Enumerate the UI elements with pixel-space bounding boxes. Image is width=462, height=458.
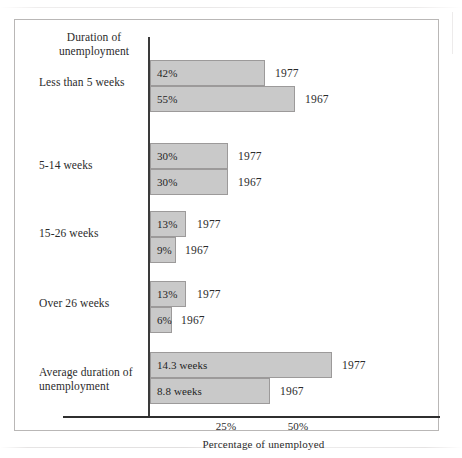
category-label-less-than-5-weeks: Less than 5 weeks — [27, 75, 149, 89]
bar-value-label: 30% — [157, 176, 177, 188]
bar-series-label-1977: 1977 — [275, 67, 299, 79]
bar-series-label-1967: 1967 — [238, 176, 262, 188]
category-label-average-duration: Average duration of unemployment — [27, 365, 149, 393]
bar-over-26-weeks-1977: 13% 1977 — [150, 281, 186, 307]
category-axis-title-line2: unemployment — [39, 44, 149, 58]
scan-edge-right — [452, 12, 453, 54]
plot-area: Duration of unemployment Less than 5 wee… — [15, 20, 440, 432]
chart-frame: Duration of unemployment Less than 5 wee… — [14, 19, 439, 431]
x-tick-25: 25% — [201, 420, 251, 432]
x-tick-50: 50% — [273, 420, 323, 432]
bar-value-label: 55% — [157, 93, 177, 105]
category-label-average-duration-line1: Average duration of — [39, 365, 149, 379]
bar-series-label-1967: 1967 — [181, 314, 205, 326]
bar-value-label: 6% — [157, 314, 172, 326]
bar-15-26-weeks-1977: 13% 1977 — [150, 211, 186, 237]
bar-average-duration-1967: 8.8 weeks 1967 — [150, 378, 270, 404]
bar-value-label: 13% — [157, 218, 177, 230]
bar-value-label: 30% — [157, 150, 177, 162]
bar-less-than-5-weeks-1967: 55% 1967 — [150, 86, 295, 112]
bar-value-label: 14.3 weeks — [157, 359, 208, 371]
bar-average-duration-1977: 14.3 weeks 1977 — [150, 352, 332, 378]
bar-5-14-weeks-1967: 30% 1967 — [150, 169, 228, 195]
bar-series-label-1967: 1967 — [305, 93, 329, 105]
scan-edge-top — [0, 7, 462, 8]
bar-15-26-weeks-1967: 9% 1967 — [150, 237, 176, 263]
bar-series-label-1967: 1967 — [280, 385, 304, 397]
category-label-average-duration-line2: unemployment — [39, 379, 149, 393]
category-label-15-26-weeks: 15-26 weeks — [27, 226, 149, 240]
bar-value-label: 42% — [157, 67, 177, 79]
bar-over-26-weeks-1967: 6% 1967 — [150, 307, 172, 333]
bar-series-label-1977: 1977 — [197, 288, 221, 300]
bar-5-14-weeks-1977: 30% 1977 — [150, 143, 228, 169]
bar-value-label: 8.8 weeks — [157, 385, 202, 397]
category-label-5-14-weeks: 5-14 weeks — [27, 158, 149, 172]
bar-value-label: 13% — [157, 288, 177, 300]
bar-series-label-1977: 1977 — [342, 359, 366, 371]
category-axis-title-line1: Duration of — [39, 30, 149, 44]
bar-value-label: 9% — [157, 244, 172, 256]
bar-series-label-1977: 1977 — [238, 150, 262, 162]
bar-series-label-1977: 1977 — [197, 218, 221, 230]
bar-series-label-1967: 1967 — [185, 244, 209, 256]
value-axis-line — [63, 416, 440, 418]
category-axis-title: Duration of unemployment — [39, 30, 149, 58]
bar-less-than-5-weeks-1977: 42% 1977 — [150, 60, 265, 86]
category-label-over-26-weeks: Over 26 weeks — [27, 296, 149, 310]
value-axis-title: Percentage of unemployed — [15, 438, 440, 450]
